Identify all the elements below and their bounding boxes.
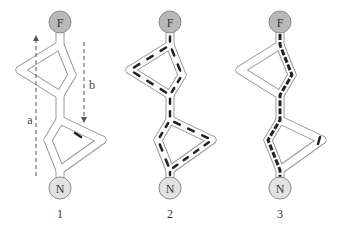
panel-label: 2 <box>167 207 173 221</box>
channel-network <box>130 33 212 177</box>
top-node-label: F <box>57 16 64 30</box>
bottom-node-label: N <box>276 182 285 196</box>
channel-interior <box>280 120 322 140</box>
channel-interior <box>20 70 60 95</box>
panel-2: F N 2 <box>130 11 212 221</box>
panel-label: 1 <box>57 207 63 221</box>
channel-interior <box>280 140 322 170</box>
channel-network <box>20 33 102 177</box>
top-node-label: F <box>167 16 174 30</box>
channel-interior <box>240 45 280 70</box>
arrow-b-label: b <box>89 78 95 92</box>
channel-interior <box>240 70 280 95</box>
bottom-node-label: N <box>166 182 175 196</box>
arrow-a-label: a <box>27 113 33 127</box>
panel-1: a b F N 1 <box>20 11 102 221</box>
channel-interior <box>20 45 60 70</box>
panel-label: 3 <box>277 207 283 221</box>
channel-interior <box>60 140 102 170</box>
network-diagram: a b F N 1 F N 2 F N 3 <box>0 0 340 230</box>
bottom-node-label: N <box>56 182 65 196</box>
top-node-label: F <box>277 16 284 30</box>
panel-3: F N 3 <box>240 11 322 221</box>
